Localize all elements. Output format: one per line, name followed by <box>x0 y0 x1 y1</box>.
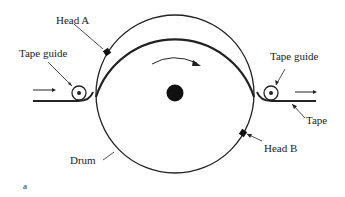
leader-drum <box>103 152 114 160</box>
tape-guide-left-icon <box>72 86 86 100</box>
arrow-right-icon-left <box>33 88 56 92</box>
leader-head-a <box>74 24 103 49</box>
label-head-a: Head A <box>56 14 89 26</box>
arrow-right-icon-right <box>295 90 317 94</box>
rotation-arrow-icon <box>152 58 201 66</box>
label-tape: Tape <box>306 114 327 126</box>
leader-tape-guide-left <box>48 62 72 86</box>
drum-spindle <box>167 85 184 102</box>
label-drum: Drum <box>70 154 96 166</box>
tape-drum-diagram: Head A Tape guide Tape guide Tape Drum H… <box>0 0 345 197</box>
label-head-b: Head B <box>264 142 297 154</box>
label-tape-guide-right: Tape guide <box>270 50 319 62</box>
tape-guide-right-icon <box>264 86 278 100</box>
label-tape-guide-left: Tape guide <box>19 47 68 59</box>
label-panel: a <box>23 181 27 191</box>
